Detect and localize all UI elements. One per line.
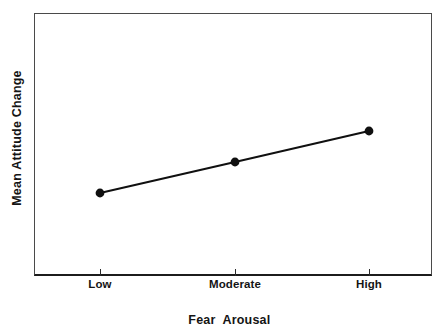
x-axis-tick-mark — [369, 269, 370, 276]
data-series-layer — [34, 13, 432, 276]
x-axis-tick-mark — [235, 269, 236, 276]
x-axis-tick-mark — [100, 269, 101, 276]
data-point — [231, 158, 240, 167]
x-axis-tick-label: Moderate — [209, 278, 261, 290]
series-markers — [96, 127, 374, 198]
y-axis-title: Mean Attitude Change — [0, 0, 34, 276]
x-axis-tick-label: Low — [88, 278, 111, 290]
x-axis-tick-label: High — [356, 278, 382, 290]
data-point — [96, 189, 105, 198]
data-point — [365, 127, 374, 136]
x-axis-title-label: Fear Arousal — [188, 313, 270, 327]
x-axis-title: Fear Arousal — [0, 299, 444, 328]
y-axis-title-label: Mean Attitude Change — [10, 70, 24, 205]
